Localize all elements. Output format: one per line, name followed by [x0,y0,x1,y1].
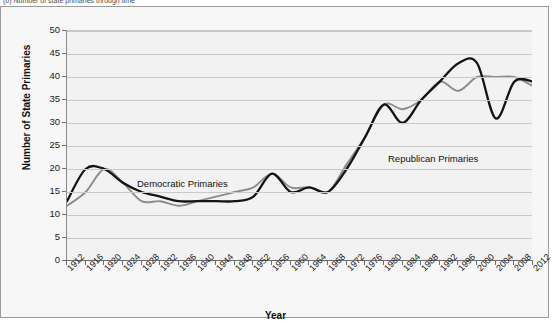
y-tick-mark [62,122,66,123]
y-tick-label: 5 [36,232,60,242]
gridline [67,77,532,78]
gridline [67,238,532,239]
y-tick-mark [62,191,66,192]
y-tick-mark [62,76,66,77]
y-tick-mark [62,99,66,100]
series-label-republican: Republican Primaries [388,153,478,164]
figure-caption: (b) Number of state primaries through ti… [3,0,135,5]
y-tick-label: 35 [36,94,60,104]
series-label-democratic: Democratic Primaries [137,178,228,189]
x-axis-title: Year [1,310,550,321]
y-tick-label: 25 [36,140,60,150]
y-tick-mark [62,53,66,54]
gridline [67,54,532,55]
y-tick-mark [62,30,66,31]
gridline [67,146,532,147]
gridline [67,169,532,170]
y-tick-label: 0 [36,255,60,265]
y-tick-label: 30 [36,117,60,127]
gridline [67,100,532,101]
y-tick-label: 15 [36,186,60,196]
chart-frame: 05101520253035404550 1912191619201924192… [0,6,549,318]
gridline [67,215,532,216]
gridline [67,123,532,124]
y-tick-label: 10 [36,209,60,219]
y-tick-label: 40 [36,71,60,81]
y-tick-mark [62,237,66,238]
chart-screenshot: (b) Number of state primaries through ti… [0,0,552,324]
y-tick-mark [62,168,66,169]
plot-area [66,30,532,260]
y-tick-label: 45 [36,48,60,58]
y-tick-label: 20 [36,163,60,173]
y-tick-label: 50 [36,25,60,35]
y-axis-title: Number of State Primaries [21,28,32,188]
y-tick-mark [62,145,66,146]
x-tick-label: 2012 [531,252,552,273]
gridline [67,192,532,193]
y-tick-mark [62,214,66,215]
gridline [67,31,532,32]
plot-inner [67,31,532,260]
